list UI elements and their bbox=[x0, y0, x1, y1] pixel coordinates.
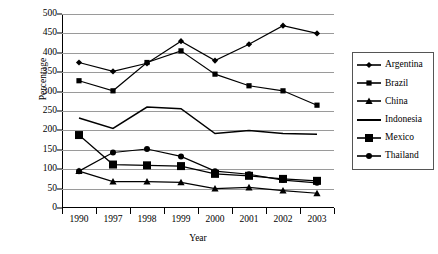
legend-item-label: Indonesia bbox=[382, 115, 422, 125]
legend-marker-icon bbox=[356, 94, 382, 108]
legend-item-label: Brazil bbox=[382, 79, 408, 89]
x-axis-tick-mark bbox=[300, 208, 301, 214]
chart-legend: ArgentinaBrazilChinaIndonesiaMexicoThail… bbox=[352, 52, 434, 170]
x-axis-tick-mark bbox=[164, 208, 165, 214]
legend-item-argentina[interactable]: Argentina bbox=[353, 56, 433, 74]
x-axis-tick-mark bbox=[62, 208, 63, 214]
legend-item-label: Argentina bbox=[382, 60, 423, 70]
legend-item-thailand[interactable]: Thailand bbox=[353, 147, 433, 165]
legend-item-china[interactable]: China bbox=[353, 92, 433, 110]
x-axis-tick-label: 1997 bbox=[104, 215, 123, 225]
x-axis-tick-mark bbox=[266, 208, 267, 214]
x-axis-tick-label: 2003 bbox=[308, 215, 327, 225]
legend-item-mexico[interactable]: Mexico bbox=[353, 129, 433, 147]
legend-item-label: Mexico bbox=[382, 133, 414, 143]
x-axis-tick-mark bbox=[334, 208, 335, 214]
x-axis-tick-label: 2002 bbox=[274, 215, 293, 225]
legend-item-brazil[interactable]: Brazil bbox=[353, 74, 433, 92]
x-axis-tick-label: 2001 bbox=[240, 215, 259, 225]
legend-marker-icon bbox=[356, 76, 382, 90]
x-axis-tick-label: 1998 bbox=[138, 215, 157, 225]
chart-root: 050100150200250300350400450500 Percentag… bbox=[0, 0, 438, 254]
x-axis-tick-label: 1990 bbox=[70, 215, 89, 225]
x-axis-tick-mark bbox=[130, 208, 131, 214]
legend-item-label: China bbox=[382, 97, 408, 107]
legend-marker-icon bbox=[356, 113, 382, 127]
legend-item-label: Thailand bbox=[382, 151, 419, 161]
legend-marker-icon bbox=[356, 131, 382, 145]
legend-marker-icon bbox=[356, 149, 382, 163]
x-axis-tick-label: 1999 bbox=[172, 215, 191, 225]
x-axis-tick-label: 2000 bbox=[206, 215, 225, 225]
legend-marker-icon bbox=[356, 58, 382, 72]
x-axis-tick-mark bbox=[96, 208, 97, 214]
x-axis-tick-mark bbox=[198, 208, 199, 214]
x-axis-tick-mark bbox=[232, 208, 233, 214]
x-axis-title: Year bbox=[0, 233, 396, 243]
legend-item-indonesia[interactable]: Indonesia bbox=[353, 111, 433, 129]
